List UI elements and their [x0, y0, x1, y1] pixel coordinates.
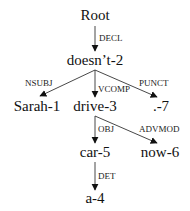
node-period-7: .-7: [153, 98, 170, 114]
node-root: Root: [80, 7, 110, 23]
rel-label-punct: PUNCT: [139, 78, 169, 88]
node-doesnt-2: doesn’t-2: [67, 52, 123, 68]
rel-label-det: DET: [98, 171, 116, 181]
rel-label-obj: OBJ: [98, 124, 115, 134]
rel-label-advmod: ADVMOD: [139, 124, 180, 134]
nodes: Root doesn’t-2 Sarah-1 drive-3 .-7 car-5…: [14, 7, 180, 206]
rel-label-decl: DECL: [99, 33, 123, 43]
rel-label-vcomp: VCOMP: [98, 84, 130, 94]
node-a-4: a-4: [85, 190, 105, 206]
dependency-tree: DECL NSUBJ VCOMP PUNCT OBJ ADVMOD DET Ro…: [0, 0, 190, 211]
node-sarah-1: Sarah-1: [14, 98, 61, 114]
rel-label-nsubj: NSUBJ: [25, 78, 53, 88]
node-car-5: car-5: [80, 144, 111, 160]
node-drive-3: drive-3: [73, 98, 116, 114]
node-now-6: now-6: [141, 144, 180, 160]
